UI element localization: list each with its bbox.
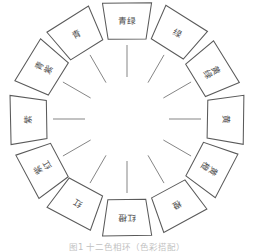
color-card[interactable] <box>152 180 207 233</box>
wheel-spoke <box>163 82 191 98</box>
wheel-spoke <box>63 82 91 98</box>
wheel-spoke <box>148 55 164 83</box>
color-card[interactable] <box>10 95 47 144</box>
cards-group <box>10 3 244 236</box>
color-card[interactable] <box>207 95 244 144</box>
wheel-spoke <box>90 55 106 83</box>
wheel-geometry <box>0 0 254 238</box>
wheel-spoke <box>148 155 164 183</box>
color-card[interactable] <box>103 199 152 236</box>
color-card[interactable] <box>186 41 240 97</box>
spokes-group <box>53 45 201 193</box>
color-card[interactable] <box>102 3 151 39</box>
wheel-spoke <box>63 140 91 156</box>
color-card[interactable] <box>151 5 207 59</box>
wheel-spoke <box>90 155 106 183</box>
color-wheel-diagram: 青绿绿黄绿黄黄橙橙红橙红紫红紫青紫青 <box>0 0 254 238</box>
figure-caption: 图1 十二色相环（色彩搭配） <box>0 240 254 252</box>
color-wheel-figure: 青绿绿黄绿黄黄橙橙红橙红紫红紫青紫青 图1 十二色相环（色彩搭配） <box>0 0 254 252</box>
wheel-spoke <box>163 140 191 156</box>
figure-caption-strip: 图1 十二色相环（色彩搭配） <box>0 238 254 252</box>
color-card[interactable] <box>186 142 238 197</box>
